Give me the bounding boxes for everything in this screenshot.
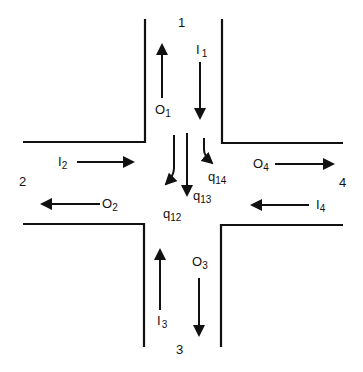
label-q12: q12: [163, 206, 182, 223]
label-I3: I3: [157, 313, 168, 330]
road-edge-bottom-left: [23, 224, 144, 347]
approach-label-1: 1: [178, 15, 185, 30]
arrow-turn-q14: [204, 138, 212, 163]
approach-label-2: 2: [19, 174, 26, 189]
label-O1: O1: [155, 102, 171, 119]
intersection-diagram: 1 2 3 4 O1 I1 I2 O2 O4 I4 I3 O3 q14 q13 …: [0, 0, 363, 372]
label-I1: I1: [196, 42, 208, 59]
label-I4: I4: [316, 197, 326, 214]
label-O4: O4: [253, 156, 269, 173]
approach-label-3: 3: [176, 342, 183, 357]
arrow-turn-q12: [166, 135, 174, 184]
road-edge-top-left: [23, 19, 145, 142]
road-edge-bottom-right: [221, 225, 343, 347]
label-q14: q14: [208, 169, 227, 186]
road-edge-top-right: [222, 19, 343, 143]
label-O2: O2: [102, 196, 118, 213]
label-O3: O3: [192, 254, 208, 271]
label-I2: I2: [58, 154, 68, 171]
approach-label-4: 4: [339, 175, 346, 190]
label-q13: q13: [193, 188, 212, 205]
